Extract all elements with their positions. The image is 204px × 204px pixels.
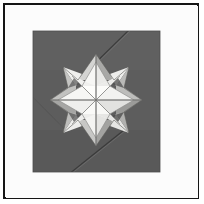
- photo-stage: [0, 0, 204, 204]
- origami-artwork: [0, 0, 204, 204]
- paper-square-group: [29, 27, 160, 179]
- origami-svg: [0, 0, 204, 204]
